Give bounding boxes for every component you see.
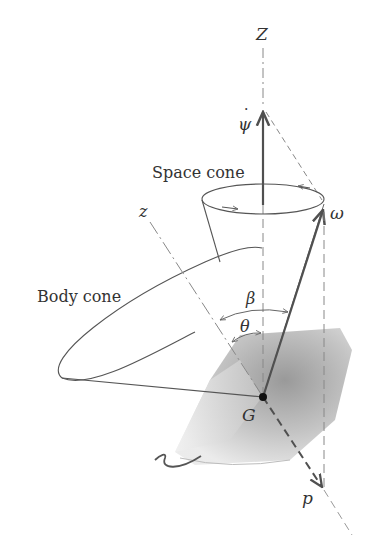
psi-omega-dashed <box>266 112 322 200</box>
center-of-mass-point <box>259 393 267 401</box>
body-cone-label: Body cone <box>37 287 121 306</box>
G-label: G <box>242 405 256 425</box>
beta-arc <box>220 310 288 320</box>
beta-label: β <box>245 289 255 308</box>
p-label: p <box>302 488 313 508</box>
precession-diagram: Z ψ · Space cone Body cone z ω β θ G p <box>0 0 385 555</box>
Z-axis-label: Z <box>255 24 269 44</box>
space-cone-label: Space cone <box>152 163 245 182</box>
p-axis-extension <box>324 490 352 535</box>
psi-dot-label: ψ <box>238 114 252 134</box>
psi-dot-label-dot: · <box>244 101 248 117</box>
z-axis-label: z <box>138 202 148 221</box>
omega-label: ω <box>330 203 344 223</box>
theta-label: θ <box>240 317 250 336</box>
